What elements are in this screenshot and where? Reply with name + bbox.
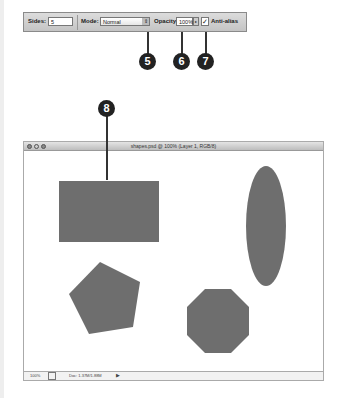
antialias-label: Anti-alias	[211, 18, 238, 24]
callout-8: 8	[98, 100, 115, 117]
callout-5: 5	[139, 53, 156, 70]
octagon-shape	[187, 289, 249, 353]
updown-icon: ⇕	[142, 18, 149, 25]
antialias-checkbox[interactable]: ✓	[201, 17, 209, 26]
rectangle-shape	[59, 181, 159, 242]
document-window: shapes.psd @ 100% (Layer 1, RGB/8) 100% …	[23, 141, 324, 381]
canvas[interactable]	[24, 142, 325, 382]
sides-input[interactable]: 5	[48, 17, 73, 26]
opacity-label: Opacity:	[154, 18, 178, 24]
callout-8-line	[106, 116, 108, 180]
mode-value: Normal	[103, 19, 121, 25]
doc-size: Doc: 1.37M/1.88M	[69, 373, 102, 378]
sides-label: Sides:	[28, 18, 46, 24]
callout-7-line	[205, 32, 207, 54]
callout-7: 7	[197, 53, 214, 70]
divider	[77, 15, 78, 30]
mode-label: Mode:	[81, 18, 99, 24]
status-icon[interactable]	[48, 372, 56, 380]
page-edge	[0, 0, 4, 398]
opacity-dropdown-button[interactable]: ▸	[193, 17, 199, 26]
ellipse-shape	[246, 166, 286, 286]
status-menu-arrow-icon[interactable]: ▶	[116, 372, 120, 378]
opacity-input[interactable]: 100%	[176, 17, 193, 26]
status-bar: 100% Doc: 1.37M/1.88M ▶	[24, 371, 323, 380]
callout-5-line	[147, 32, 149, 54]
callout-6-line	[181, 32, 183, 54]
mode-select[interactable]: Normal ⇕	[100, 17, 150, 26]
options-bar: Sides: 5 Mode: Normal ⇕ Opacity: 100% ▸ …	[23, 12, 247, 32]
zoom-level[interactable]: 100%	[30, 373, 40, 378]
pentagon-shape	[69, 262, 140, 334]
callout-6: 6	[173, 53, 190, 70]
